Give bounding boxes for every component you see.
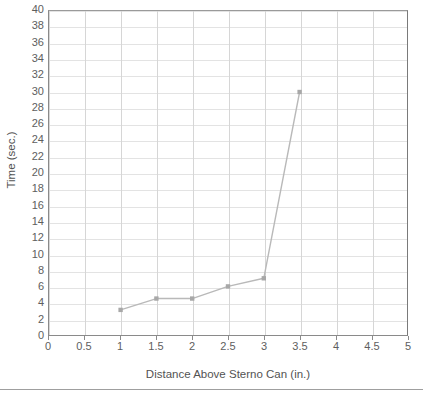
chart-figure: 0246810121416182022242628303234363840 Ti… xyxy=(0,0,423,398)
y-axis-tick-label: 8 xyxy=(4,265,44,276)
x-axis-tick-label: 0 xyxy=(28,340,68,352)
x-axis-tick-label: 3.5 xyxy=(280,340,320,352)
y-axis-tick-label: 2 xyxy=(4,314,44,325)
y-axis-tick-label: 34 xyxy=(4,53,44,64)
y-axis-title: Time (sec.) xyxy=(5,110,17,210)
x-axis-tick-labels: 00.511.522.533.544.55 xyxy=(48,340,408,356)
y-axis-tick-label: 6 xyxy=(4,281,44,292)
data-point-marker xyxy=(190,296,194,300)
data-point-marker xyxy=(118,308,122,312)
x-axis-tick-label: 1.5 xyxy=(136,340,176,352)
y-axis-tick-label: 10 xyxy=(4,249,44,260)
y-axis-tick-label: 30 xyxy=(4,86,44,97)
data-point-marker xyxy=(262,276,266,280)
data-point-marker xyxy=(297,90,301,94)
x-axis-title: Distance Above Sterno Can (in.) xyxy=(48,368,408,380)
y-axis-tick-label: 14 xyxy=(4,216,44,227)
y-axis-tick-label: 36 xyxy=(4,37,44,48)
y-axis-tick-label: 32 xyxy=(4,69,44,80)
x-axis-tick-label: 0.5 xyxy=(64,340,104,352)
x-axis-tick-label: 1 xyxy=(100,340,140,352)
data-point-marker xyxy=(226,284,230,288)
y-axis-tick-label: 12 xyxy=(4,232,44,243)
x-axis-tick-label: 2 xyxy=(172,340,212,352)
x-axis-tick-label: 4 xyxy=(316,340,356,352)
y-axis-tick-label: 38 xyxy=(4,20,44,31)
page-separator-rule xyxy=(0,389,423,390)
plot-area xyxy=(48,10,408,336)
data-series-line xyxy=(49,11,407,335)
y-axis-tick-label: 40 xyxy=(4,4,44,15)
x-axis-tick-label: 2.5 xyxy=(208,340,248,352)
x-axis-tick-label: 5 xyxy=(388,340,423,352)
data-point-marker xyxy=(154,296,158,300)
x-axis-tick-label: 3 xyxy=(244,340,284,352)
y-axis-tick-label: 4 xyxy=(4,297,44,308)
x-axis-tick-label: 4.5 xyxy=(352,340,392,352)
